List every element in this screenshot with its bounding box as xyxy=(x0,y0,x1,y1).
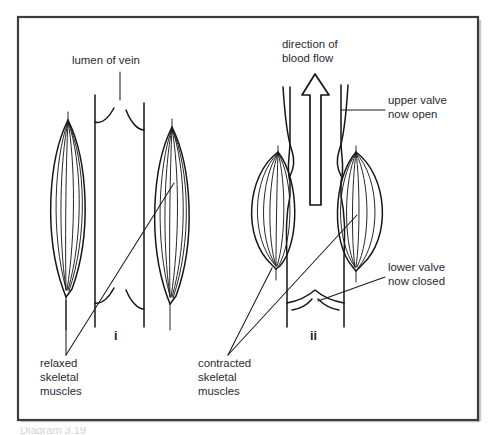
caption-text: Diagram 3.19 xyxy=(20,424,86,435)
panel-number-ii: ii xyxy=(310,329,317,343)
caption-clipped: Diagram 3.19 xyxy=(20,424,86,435)
label-upper-valve-line2: now open xyxy=(388,108,437,120)
label-upper-valve-line1: upper valve xyxy=(388,94,447,106)
label-blood-flow-line1: direction of xyxy=(282,38,339,50)
venous-valve-diagram: i xyxy=(0,0,493,435)
label-relaxed-line3: muscles xyxy=(40,385,82,397)
label-contracted-line3: muscles xyxy=(198,385,240,397)
label-lower-valve-line2: now closed xyxy=(388,275,445,287)
label-lumen-of-vein-text: lumen of vein xyxy=(72,54,140,66)
label-blood-flow-line2: blood flow xyxy=(282,52,334,64)
label-contracted-line2: skeletal xyxy=(198,371,237,383)
label-relaxed-line2: skeletal xyxy=(40,371,79,383)
label-contracted-line1: contracted xyxy=(198,357,251,369)
figure-root: i xyxy=(0,0,493,435)
label-lower-valve-line1: lower valve xyxy=(388,261,445,273)
label-relaxed-line1: relaxed xyxy=(40,357,77,369)
panel-number-i: i xyxy=(114,329,117,343)
